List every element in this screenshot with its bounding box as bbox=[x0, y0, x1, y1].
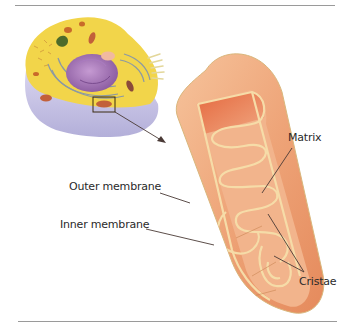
mitochondrion-diagram bbox=[0, 0, 349, 331]
label-inner-membrane: Inner membrane bbox=[60, 218, 149, 231]
label-outer-membrane: Outer membrane bbox=[69, 180, 161, 193]
outer-membrane-leader bbox=[160, 193, 190, 203]
label-cristae: Cristae bbox=[299, 275, 336, 288]
label-matrix: Matrix bbox=[288, 131, 321, 144]
arrow-head-icon bbox=[157, 136, 166, 143]
animal-cell-illustration bbox=[25, 17, 166, 143]
inner-membrane-leader bbox=[146, 229, 214, 245]
